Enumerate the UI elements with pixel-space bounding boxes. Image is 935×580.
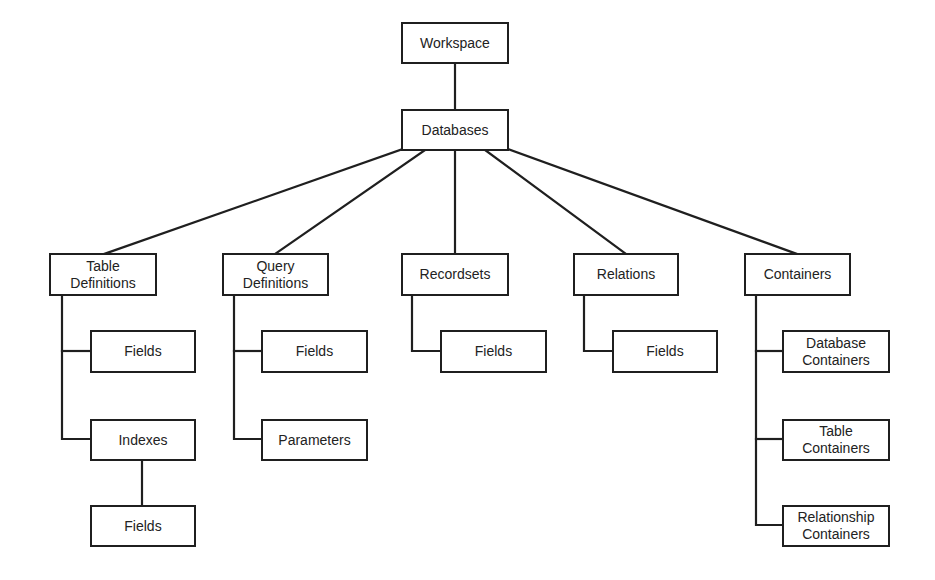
node-containers: Containers [744,253,851,296]
connector-databases-table-definitions [104,149,403,254]
node-query-definitions-fields: Fields [261,330,368,373]
object-hierarchy-diagram: Workspace Databases Table Definitions Fi… [0,0,935,580]
connector-databases-containers [508,149,797,254]
node-recordsets: Recordsets [401,253,509,296]
connector-recordsets-fields [412,295,440,351]
node-recordsets-fields: Fields [440,330,547,373]
node-parameters: Parameters [261,419,368,461]
node-relations: Relations [573,253,679,296]
node-table-definitions-fields: Fields [90,330,196,373]
node-relationship-containers: Relationship Containers [782,505,890,547]
node-table-definitions: Table Definitions [49,253,157,296]
connector-containers-relationship [756,295,782,525]
node-query-definitions: Query Definitions [222,253,329,296]
node-database-containers: Database Containers [782,330,890,373]
node-workspace: Workspace [401,22,509,64]
node-databases: Databases [401,109,509,151]
connector-querydefs-parameters [234,295,261,439]
connector-tabledefs-indexes [62,295,90,439]
node-indexes-fields: Fields [90,505,196,547]
connector-databases-query-definitions [275,150,425,254]
node-table-containers: Table Containers [782,419,890,461]
connector-relations-fields [584,295,612,351]
node-indexes: Indexes [90,419,196,461]
node-relations-fields: Fields [612,330,718,373]
